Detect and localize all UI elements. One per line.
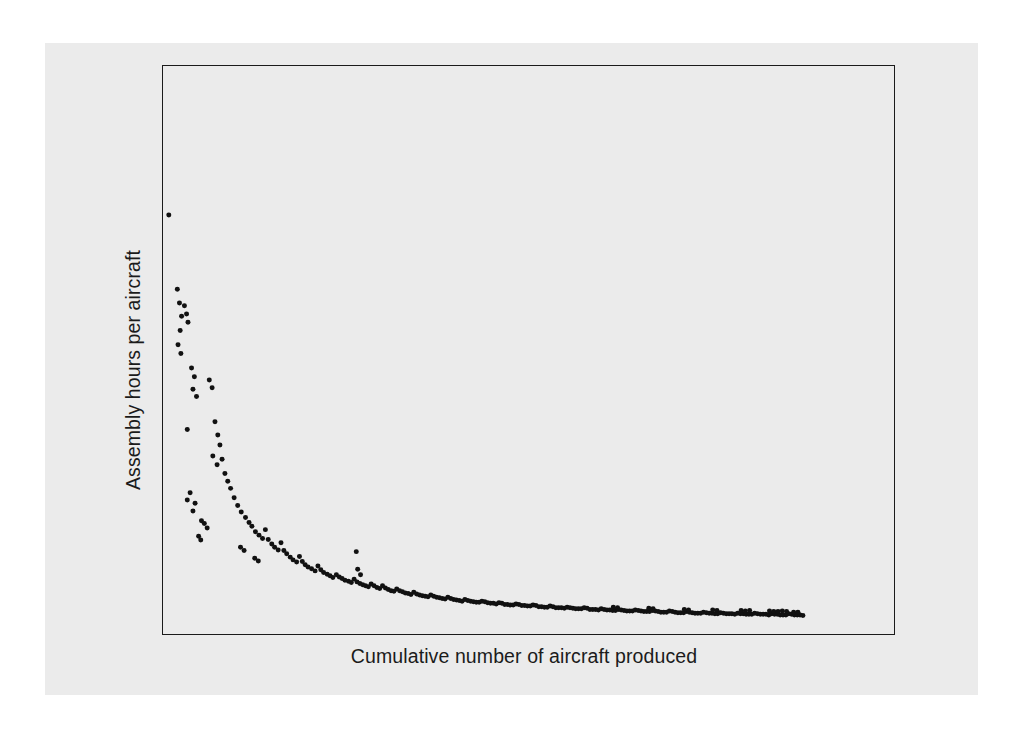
y-axis-label: Assembly hours per aircraft — [122, 250, 145, 490]
figure-root: Assembly hours per aircraft Cumulative n… — [0, 0, 1032, 732]
scatter-plot-canvas — [163, 66, 894, 634]
x-axis-label: Cumulative number of aircraft produced — [351, 645, 697, 668]
data-marker-layer — [166, 213, 805, 618]
plot-frame — [162, 65, 895, 635]
